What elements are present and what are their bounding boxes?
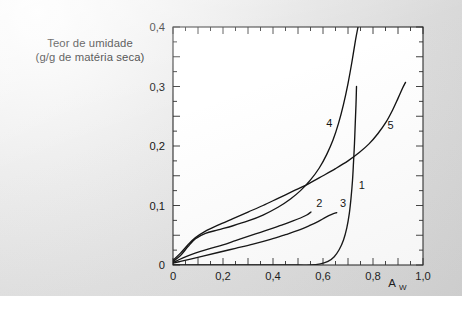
- y-tick-label: 0,4: [149, 21, 165, 33]
- curve-label-2: 2: [316, 197, 322, 209]
- y-tick-label: 0,3: [149, 81, 165, 93]
- x-tick-label: 0,8: [365, 270, 381, 282]
- curve-label-3: 3: [340, 197, 346, 209]
- y-tick-label: 0,2: [149, 140, 165, 152]
- chart-svg: 00,20,40,60,81,0 00,10,20,30,4 12345 A W: [0, 0, 462, 296]
- curve-label-5: 5: [387, 119, 393, 131]
- x-tick-label: 1,0: [415, 270, 431, 282]
- x-axis-label: A: [388, 277, 396, 289]
- x-tick-label: 0: [170, 270, 176, 282]
- x-axis-label-subscript: W: [399, 283, 407, 292]
- x-tick-label: 0,4: [265, 270, 281, 282]
- x-tick-label: 0,2: [215, 270, 231, 282]
- curve-label-4: 4: [326, 117, 332, 129]
- y-tick-label: 0,1: [149, 200, 165, 212]
- figure-panel: Teor de umidade (g/g de matéria seca) 00…: [0, 0, 462, 296]
- curve-label-1: 1: [359, 179, 365, 191]
- y-tick-label: 0: [159, 259, 165, 271]
- x-tick-label: 0,6: [315, 270, 331, 282]
- y-tick-labels: 00,10,20,30,4: [149, 21, 165, 271]
